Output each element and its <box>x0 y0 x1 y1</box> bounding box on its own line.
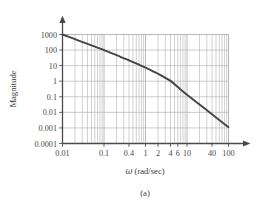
y-tick-label: 0.1 <box>47 93 57 102</box>
y-tick-label: 0.01 <box>43 108 57 117</box>
y-tick-label: 100 <box>45 46 57 55</box>
svg-text:ω (rad/sec): ω (rad/sec) <box>125 166 164 176</box>
x-tick-label: 0.4 <box>124 149 134 158</box>
x-tick-label: 10 <box>183 149 191 158</box>
omega-symbol: ω <box>125 166 132 176</box>
x-tick-label: 4 <box>168 149 172 158</box>
x-tick-label: 0.1 <box>99 149 109 158</box>
y-axis-title: Magnitude <box>8 70 18 107</box>
bode-magnitude-plot: 0.010.10.412461040100 0.00010.0010.010.1… <box>0 0 269 202</box>
x-axis-title: ω (rad/sec) <box>125 166 164 176</box>
grid-minor-lines <box>75 35 227 144</box>
y-tick-label: 1000 <box>41 31 57 40</box>
y-tick-label: 0.0001 <box>34 140 57 149</box>
x-tick-label: 1 <box>143 149 147 158</box>
x-tick-label: 40 <box>208 149 216 158</box>
x-tick-label: 100 <box>222 149 234 158</box>
y-tick-label: 0.001 <box>39 124 57 133</box>
y-tick-label: 1 <box>53 77 57 86</box>
y-tick-label: 10 <box>49 62 57 71</box>
x-tick-label: 0.01 <box>55 149 69 158</box>
x-tick-label: 2 <box>156 149 160 158</box>
x-tick-label: 6 <box>176 149 180 158</box>
x-axis-tick-labels: 0.010.10.412461040100 <box>55 149 234 158</box>
figure-caption: (a) <box>140 188 150 198</box>
figure-container: 0.010.10.412461040100 0.00010.0010.010.1… <box>0 0 269 202</box>
y-axis-tick-labels: 0.00010.0010.010.11101001000 <box>34 31 57 149</box>
